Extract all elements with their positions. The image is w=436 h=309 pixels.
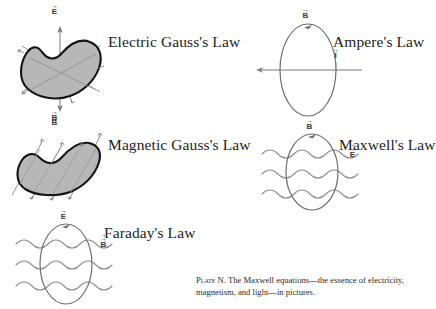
induction-loop <box>40 224 92 304</box>
label-B-vector-top: → B <box>302 8 309 20</box>
figure-ampere: → B → I <box>250 12 368 120</box>
maxwell-equations-plate: → E → B Electric Gauss's Law → B <box>0 0 436 309</box>
vector-symbol: I <box>334 51 336 60</box>
figure-magnetic-gauss: → B <box>8 122 112 200</box>
title-maxwell: Maxwell's Law <box>339 136 436 154</box>
title-electric-gauss: Electric Gauss's Law <box>108 33 240 51</box>
vector-symbol: E <box>61 212 66 221</box>
plate-caption-label: Plate N. <box>196 275 226 285</box>
plate-caption-text: The Maxwell equations—the essence of ele… <box>196 275 404 297</box>
current-line <box>256 67 362 73</box>
vector-symbol: B <box>307 122 313 131</box>
label-E-vector-top: → E <box>60 209 67 221</box>
electric-gauss-diagram <box>6 6 114 124</box>
label-B-vector-top: → B <box>51 110 58 122</box>
title-magnetic-gauss: Magnetic Gauss's Law <box>108 136 251 154</box>
plate-caption: Plate N. The Maxwell equations—the essen… <box>196 275 426 298</box>
figure-electric-gauss: → E → B <box>6 6 114 124</box>
flux-entry-arrowheads <box>30 196 72 200</box>
label-E-vector-top: → E <box>51 4 58 16</box>
induction-loop <box>286 134 338 210</box>
vector-symbol: E <box>52 7 57 16</box>
loop-direction-arrowhead <box>308 135 316 139</box>
vector-symbol: B <box>52 113 58 122</box>
loop-direction-arrowhead <box>62 225 70 229</box>
wavy-field-lines <box>16 240 112 290</box>
title-faraday: Faraday's Law <box>104 224 195 242</box>
ampere-diagram <box>250 12 368 120</box>
gaussian-surface-blob <box>21 41 101 99</box>
label-B-vector-top: → B <box>306 119 313 131</box>
wavy-field-lines <box>262 150 358 198</box>
loop-direction-arrowhead <box>304 25 312 29</box>
vector-symbol: B <box>303 11 309 20</box>
title-ampere: Ampere's Law <box>333 33 424 51</box>
magnetic-gauss-diagram <box>8 122 112 200</box>
